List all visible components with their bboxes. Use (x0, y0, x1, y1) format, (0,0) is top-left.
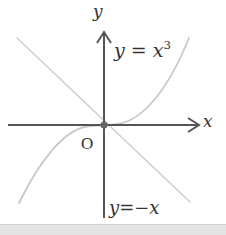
cubic-equation-base: y = x (114, 39, 163, 61)
origin-label: O (81, 135, 93, 152)
origin-dot (101, 122, 108, 129)
bottom-bar (0, 224, 226, 235)
y-axis-label: y (93, 3, 103, 20)
graph-figure: y x O y = x3 y=−x (0, 0, 226, 235)
cubic-equation-label: y = x3 (114, 40, 171, 60)
line-equation-label: y=−x (109, 199, 159, 217)
cubic-equation-exponent: 3 (163, 38, 171, 52)
x-axis-label: x (203, 113, 213, 130)
